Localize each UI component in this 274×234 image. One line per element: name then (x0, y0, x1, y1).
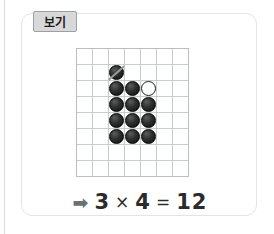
grid-cell[interactable] (173, 65, 189, 81)
grid-row (77, 161, 189, 177)
grid-cell[interactable] (125, 145, 141, 161)
grid-cell[interactable] (173, 81, 189, 97)
black-stone[interactable] (109, 81, 124, 96)
grid-cell[interactable] (157, 49, 173, 65)
black-stone[interactable] (141, 97, 156, 112)
grid-cell[interactable] (109, 113, 125, 129)
grid-cell[interactable] (77, 161, 93, 177)
grid-cell[interactable] (125, 49, 141, 65)
black-stone[interactable] (141, 113, 156, 128)
black-stone[interactable] (109, 97, 124, 112)
grid-cell[interactable] (109, 81, 125, 97)
grid-cell[interactable] (109, 129, 125, 145)
grid-cell[interactable] (141, 97, 157, 113)
grid-cell[interactable] (125, 129, 141, 145)
grid-cell[interactable] (93, 113, 109, 129)
grid-cell[interactable] (173, 161, 189, 177)
grid-cell[interactable] (125, 81, 141, 97)
grid-cell[interactable] (173, 49, 189, 65)
grid-row (77, 113, 189, 129)
equation-right-operand: 4 (135, 192, 151, 213)
grid-cell[interactable] (93, 161, 109, 177)
grid-cell[interactable] (157, 145, 173, 161)
grid-cell[interactable] (157, 81, 173, 97)
grid-cell[interactable] (77, 113, 93, 129)
grid-cell[interactable] (141, 81, 157, 97)
grid-cell[interactable] (93, 49, 109, 65)
grid-cell[interactable] (77, 65, 93, 81)
grid-cell[interactable] (93, 97, 109, 113)
grid-cell[interactable] (173, 129, 189, 145)
grid-cell[interactable] (157, 161, 173, 177)
black-stone[interactable] (109, 113, 124, 128)
grid-cell[interactable] (109, 161, 125, 177)
grid-row (77, 49, 189, 65)
grid-cell[interactable] (77, 145, 93, 161)
grid-row (77, 145, 189, 161)
black-stone[interactable] (125, 113, 140, 128)
grid-cell[interactable] (93, 129, 109, 145)
grid-cell[interactable] (77, 97, 93, 113)
grid-cell[interactable] (125, 113, 141, 129)
grid-cell[interactable] (109, 49, 125, 65)
grid-cell[interactable] (109, 97, 125, 113)
equation-equals-sign: = (155, 194, 172, 211)
grid-cell[interactable] (109, 65, 125, 81)
grid-row (77, 97, 189, 113)
grid-cell[interactable] (77, 129, 93, 145)
equation-left-operand: 3 (94, 192, 110, 213)
equation-row: ➡ 3 × 4 = 12 (22, 192, 258, 213)
grid-cell[interactable] (77, 81, 93, 97)
grid-cell[interactable] (109, 145, 125, 161)
grid-cell[interactable] (93, 145, 109, 161)
black-stone[interactable] (109, 129, 124, 144)
grid-cell[interactable] (173, 145, 189, 161)
grid-cell[interactable] (125, 97, 141, 113)
grid-cell[interactable] (141, 145, 157, 161)
grid-cell[interactable] (141, 49, 157, 65)
black-stone[interactable] (141, 129, 156, 144)
page-left-rule (4, 0, 5, 234)
grid-cell[interactable] (93, 65, 109, 81)
stone-grid (76, 48, 189, 177)
right-arrow-icon: ➡ (73, 193, 90, 212)
grid-cell[interactable] (157, 113, 173, 129)
grid-cell[interactable] (77, 49, 93, 65)
black-stone[interactable] (125, 129, 140, 144)
grid-cell[interactable] (157, 65, 173, 81)
grid-cell[interactable] (141, 129, 157, 145)
example-card: 보기 ➡ 3 × 4 = 12 (21, 13, 257, 216)
grid-cell[interactable] (173, 113, 189, 129)
grid-cell[interactable] (141, 65, 157, 81)
equation-result: 12 (176, 192, 207, 213)
grid-cell[interactable] (125, 161, 141, 177)
grid-row (77, 81, 189, 97)
grid-cell[interactable] (93, 81, 109, 97)
grid-cell[interactable] (125, 65, 141, 81)
grid-cell[interactable] (157, 129, 173, 145)
grid-cell[interactable] (157, 97, 173, 113)
black-stone[interactable] (125, 81, 140, 96)
grid-cell[interactable] (173, 97, 189, 113)
white-stone[interactable] (141, 81, 156, 96)
grid-row (77, 129, 189, 145)
example-tab-label: 보기 (33, 11, 77, 32)
grid-cell[interactable] (141, 161, 157, 177)
black-stone[interactable] (125, 97, 140, 112)
equation-multiply-operator: × (114, 194, 131, 211)
grid-row (77, 65, 189, 81)
grid-cell[interactable] (141, 113, 157, 129)
